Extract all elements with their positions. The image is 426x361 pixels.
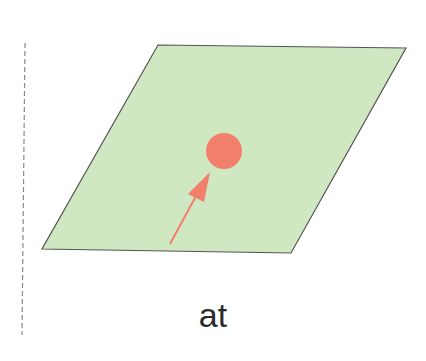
target-dot [206,133,242,169]
dashed-divider [22,43,25,335]
preposition-label: at [0,298,426,332]
